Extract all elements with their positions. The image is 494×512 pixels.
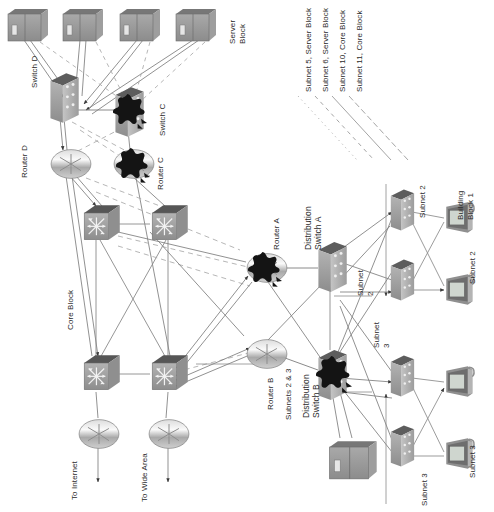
network-diagram: Server Block Switch D Switch C Router D … — [0, 0, 494, 512]
core-switch-icon[interactable] — [152, 355, 188, 389]
legend — [298, 96, 408, 160]
legend-sample-line — [349, 96, 408, 160]
access-switch-icon[interactable] — [391, 189, 414, 230]
label-subnet-3-right: Subnet 3 — [468, 445, 478, 478]
label-subnets-2-and-3: Subnets 2 & 3 — [284, 368, 294, 420]
label-server-block: Server Block — [228, 20, 247, 44]
access-switch-icon[interactable] — [391, 425, 414, 466]
label-subnet-2-right: Subnet 2 — [468, 251, 478, 284]
label-distribution-switch-b: Distribution Switch B — [302, 374, 321, 418]
core-switch-icon[interactable] — [84, 355, 120, 389]
access-switch-icon[interactable] — [391, 259, 414, 300]
label-core-block: Core Block — [66, 290, 76, 330]
legend-entry-label: Subnet 6, Server Block — [321, 8, 331, 92]
server-uplinks-solid — [24, 40, 199, 114]
router-to-internet-icon[interactable] — [79, 420, 119, 449]
core-switch-icon[interactable] — [84, 205, 120, 239]
diagram-canvas — [0, 0, 494, 512]
label-switch-d: Switch D — [30, 56, 40, 88]
label-to-wide-area: To Wide Area — [140, 453, 150, 502]
label-switch-c: Switch C — [158, 104, 168, 136]
router-d-icon[interactable] — [51, 150, 91, 179]
server-icon[interactable] — [176, 9, 216, 41]
label-to-internet: To Internet — [70, 461, 80, 500]
server-icon[interactable] — [63, 9, 103, 41]
server-icon[interactable] — [120, 9, 160, 41]
legend-sample-line — [315, 96, 374, 160]
core-mesh — [96, 224, 168, 374]
server-icon[interactable] — [8, 9, 48, 41]
label-subnet-3-bottom: Subnet 3 — [420, 473, 430, 506]
legend-entry-label: Subnet 11, Core Block — [355, 10, 365, 92]
router-to-wide-area-icon[interactable] — [149, 420, 189, 449]
label-subnet-2-top: Subnet 2 — [418, 185, 428, 218]
switch-d-icon[interactable] — [50, 73, 78, 123]
node-layer — [8, 9, 474, 479]
label-subnet-2-distribution: Subnet 2 — [356, 270, 375, 296]
legend-entry-label: Subnet 5, Server Block — [304, 8, 314, 92]
server-icon[interactable] — [330, 441, 377, 479]
label-router-c: Router C — [156, 157, 166, 190]
core-switch-icon[interactable] — [152, 205, 188, 239]
router-b-icon[interactable] — [247, 340, 287, 369]
label-distribution-switch-a: Distribution Switch A — [304, 206, 323, 250]
access-switch-icon[interactable] — [391, 355, 414, 396]
label-subnet-3-distribution: Subnet 3 — [372, 322, 391, 348]
legend-sample-line — [332, 96, 391, 160]
label-router-a: Router A — [272, 218, 282, 250]
legend-sample-line — [298, 96, 357, 160]
label-router-d: Router D — [20, 145, 30, 178]
label-router-b: Router B — [266, 378, 276, 410]
workstation-icon[interactable] — [446, 366, 474, 397]
label-building-block-1: Building Block 1 — [456, 191, 475, 220]
legend-entry-label: Subnet 10, Core Block — [338, 10, 348, 92]
